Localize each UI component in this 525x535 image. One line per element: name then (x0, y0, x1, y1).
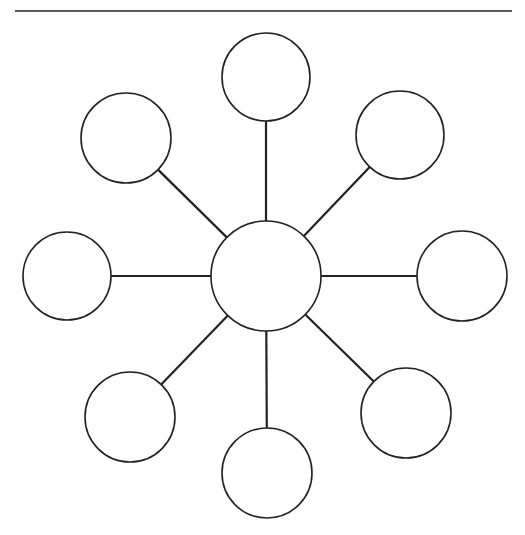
node-top-circle (222, 33, 310, 121)
node-right (417, 231, 507, 321)
node-left-circle (23, 232, 111, 320)
node-bottom-right (361, 368, 451, 458)
node-bottom-right-circle (361, 368, 451, 458)
node-top-left (81, 93, 171, 183)
node-left (23, 232, 111, 320)
node-bottom-left-circle (85, 372, 175, 462)
web-diagram (0, 0, 525, 535)
node-bottom-left (85, 372, 175, 462)
center-node (211, 221, 321, 331)
nodes (23, 33, 507, 518)
node-top-right (356, 91, 444, 179)
center-node-circle (211, 221, 321, 331)
node-right-circle (417, 231, 507, 321)
connector-bottom-right (305, 315, 374, 382)
node-top (222, 33, 310, 121)
connector-top-right (304, 167, 370, 236)
node-top-left-circle (81, 93, 171, 183)
connector-bottom (266, 331, 267, 428)
node-bottom-circle (222, 428, 312, 518)
node-top-right-circle (356, 91, 444, 179)
connector-bottom-left (161, 316, 228, 385)
node-bottom (222, 428, 312, 518)
connector-top-left (158, 170, 227, 238)
